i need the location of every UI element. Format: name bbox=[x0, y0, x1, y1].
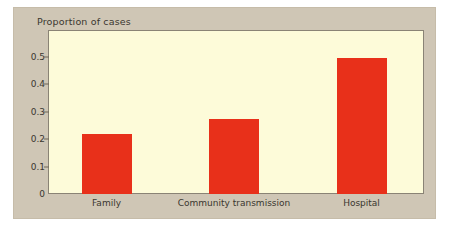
figure: Proportion of cases 00.10.20.30.40.5 Fam… bbox=[0, 0, 449, 229]
y-tick-mark bbox=[44, 111, 49, 112]
bar bbox=[82, 134, 132, 194]
y-tick-mark bbox=[44, 84, 49, 85]
x-tick-label: Family bbox=[92, 198, 121, 208]
y-tick-mark bbox=[44, 139, 49, 140]
x-tick-label: Hospital bbox=[343, 198, 380, 208]
y-tick-label: 0.2 bbox=[19, 134, 45, 144]
y-tick-mark bbox=[44, 166, 49, 167]
y-tick-label: 0 bbox=[19, 189, 45, 199]
y-axis: 00.10.20.30.40.5 bbox=[0, 0, 48, 229]
chart-title: Proportion of cases bbox=[37, 16, 131, 27]
y-tick-label: 0.3 bbox=[19, 107, 45, 117]
y-tick-label: 0.4 bbox=[19, 79, 45, 89]
y-tick-label: 0.1 bbox=[19, 162, 45, 172]
x-tick-label: Community transmission bbox=[178, 198, 290, 208]
y-tick-mark bbox=[44, 57, 49, 58]
bar bbox=[209, 119, 259, 194]
y-tick-label: 0.5 bbox=[19, 52, 45, 62]
bar bbox=[337, 58, 387, 194]
